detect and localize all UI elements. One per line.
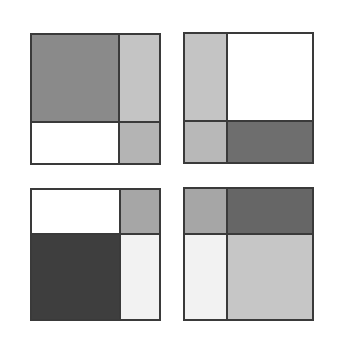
cell-bl bbox=[185, 121, 227, 162]
cell-tl bbox=[185, 189, 227, 234]
horizontal-divider bbox=[32, 121, 159, 123]
cell-tl bbox=[32, 35, 119, 122]
cell-bl bbox=[32, 122, 119, 163]
cell-br bbox=[227, 234, 312, 319]
square-panel-bottom-right bbox=[183, 187, 314, 321]
cell-tr bbox=[227, 189, 312, 234]
cell-tr bbox=[119, 35, 159, 122]
square-panel-top-left bbox=[30, 33, 161, 165]
vertical-divider bbox=[226, 189, 228, 319]
cell-tl bbox=[32, 190, 120, 234]
horizontal-divider bbox=[185, 233, 312, 235]
square-panel-bottom-left bbox=[30, 188, 161, 321]
vertical-divider bbox=[226, 34, 228, 162]
cell-br bbox=[120, 234, 159, 319]
cell-bl bbox=[185, 234, 227, 319]
cell-tr bbox=[120, 190, 159, 234]
vertical-divider bbox=[118, 35, 120, 163]
horizontal-divider bbox=[32, 233, 159, 235]
vertical-divider bbox=[119, 190, 121, 319]
cell-tl bbox=[185, 34, 227, 121]
cell-bl bbox=[32, 234, 120, 319]
square-panel-top-right bbox=[183, 32, 314, 164]
cell-br bbox=[227, 121, 312, 162]
cell-br bbox=[119, 122, 159, 163]
cell-tr bbox=[227, 34, 312, 121]
horizontal-divider bbox=[185, 120, 312, 122]
